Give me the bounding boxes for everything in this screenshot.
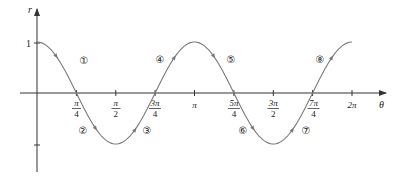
y-tick-label-1: 1 — [26, 38, 31, 49]
svg-text:π: π — [74, 98, 79, 108]
svg-text:4: 4 — [74, 109, 79, 119]
x-axis-label: θ — [379, 99, 384, 110]
svg-text:4: 4 — [311, 109, 316, 119]
svg-text:7π: 7π — [309, 98, 319, 108]
tick-3pi-over-2: 3π 2 — [268, 98, 280, 119]
segment-label-4: ④ — [156, 54, 165, 65]
tick-2pi: 2π — [347, 100, 357, 110]
y-axis-label: r — [28, 4, 32, 15]
tick-pi-over-2: π 2 — [112, 98, 121, 119]
svg-text:π: π — [114, 98, 119, 108]
segment-label-2: ② — [79, 125, 88, 136]
tick-pi: π — [192, 100, 197, 110]
tick-7pi-over-4: 7π 4 — [308, 98, 320, 119]
svg-text:3π: 3π — [268, 98, 279, 108]
segment-label-7: ⑦ — [302, 125, 311, 136]
segment-label-6: ⑥ — [239, 125, 248, 136]
segment-label-8: ⑧ — [316, 54, 325, 65]
tick-pi-over-4: π 4 — [72, 98, 81, 119]
cos-2theta-chart: r θ 1 π 4 π 2 3π 4 π 5π 4 3π 2 — [0, 0, 410, 177]
segment-label-1: ① — [80, 55, 89, 66]
segment-label-5: ⑤ — [227, 54, 236, 65]
svg-text:2: 2 — [114, 109, 119, 119]
segment-label-3: ③ — [143, 125, 152, 136]
svg-text:2: 2 — [271, 109, 276, 119]
svg-text:3π: 3π — [150, 98, 161, 108]
svg-text:4: 4 — [232, 109, 237, 119]
svg-text:4: 4 — [153, 109, 158, 119]
